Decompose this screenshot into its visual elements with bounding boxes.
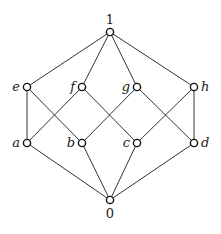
node-label-e: e [12,79,20,94]
hasse-diagram: 1efghabcd0 [0,0,221,234]
diagram-canvas: 1efghabcd0 [0,0,221,234]
edges-group [27,32,194,200]
node-0 [106,196,113,203]
node-g [133,83,140,90]
node-label-g: g [122,79,130,94]
edge-b-0 [82,143,110,200]
node-label-c: c [123,135,131,150]
node-d [190,139,197,146]
node-label-d: d [201,135,209,150]
node-e [23,83,30,90]
edge-d-0 [110,143,194,200]
edge-1-f [82,32,110,87]
node-c [133,139,140,146]
edge-a-0 [27,143,110,200]
edge-c-0 [110,143,137,200]
node-label-h: h [201,79,209,94]
node-label-0: 0 [106,206,114,221]
node-label-a: a [12,135,20,150]
node-f [78,83,85,90]
node-label-f: f [69,79,77,94]
node-label-b: b [67,135,75,150]
node-1 [106,28,113,35]
node-a [23,139,30,146]
node-h [190,83,197,90]
node-b [78,139,85,146]
edge-1-e [27,32,110,87]
node-label-1: 1 [106,12,114,27]
